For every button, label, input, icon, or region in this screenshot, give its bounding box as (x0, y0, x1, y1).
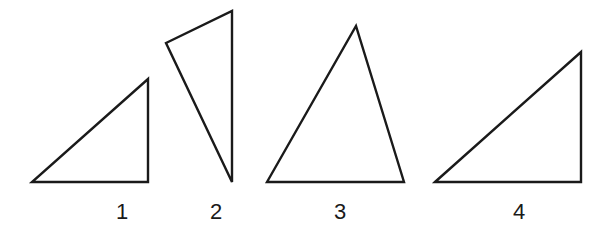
triangle-label-1: 1 (116, 201, 128, 223)
triangle-label-3: 3 (334, 201, 346, 223)
triangle-label-2: 2 (210, 201, 222, 223)
triangle-4 (435, 52, 581, 182)
triangle-label-4: 4 (513, 201, 525, 223)
triangle-2 (166, 11, 232, 182)
triangle-3 (267, 26, 404, 182)
triangle-1 (32, 79, 148, 182)
